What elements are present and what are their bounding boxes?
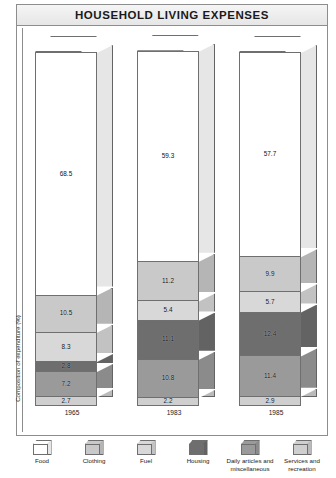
bar-segment: 8.3 bbox=[35, 332, 97, 361]
bar-segment: 11.2 bbox=[137, 261, 199, 301]
legend-swatch-cube-icon bbox=[33, 440, 52, 455]
segment-value-label: 5.4 bbox=[164, 307, 173, 313]
bar-top-face bbox=[137, 35, 199, 51]
bar-group-1985: 57.79.95.712.411.42.9 1985 bbox=[239, 52, 317, 406]
legend-swatch-cube-icon bbox=[241, 440, 260, 455]
legend-swatch-cube-icon bbox=[293, 440, 312, 455]
bar-group-1965: 68.510.58.32.87.22.7 1965 bbox=[35, 52, 113, 406]
segment-value-label: 57.7 bbox=[264, 151, 276, 157]
legend-label: Fuel bbox=[140, 457, 152, 465]
bar-segment: 2.8 bbox=[35, 361, 97, 371]
stacked-bar: 59.311.25.411.110.82.2 bbox=[137, 51, 199, 406]
legend-item[interactable]: Housing bbox=[172, 440, 224, 465]
bar-segment: 2.9 bbox=[239, 396, 301, 406]
bar-segment: 57.7 bbox=[239, 52, 301, 256]
bar-segment: 2.7 bbox=[35, 396, 97, 406]
legend-label: Housing bbox=[187, 457, 210, 465]
stacked-bar: 68.510.58.32.87.22.7 bbox=[35, 52, 97, 406]
bar-segment: 10.8 bbox=[137, 359, 199, 397]
cube-front-face bbox=[137, 444, 152, 455]
legend-label: Clothing bbox=[83, 457, 106, 465]
bar-top-face bbox=[239, 36, 301, 52]
bar-segment: 5.4 bbox=[137, 300, 199, 319]
category-label: 1965 bbox=[35, 409, 109, 416]
chart-root: HOUSEHOLD LIVING EXPENSES Composition of… bbox=[0, 0, 336, 478]
segment-value-label: 59.3 bbox=[162, 153, 174, 159]
cube-front-face bbox=[293, 444, 308, 455]
cube-front-face bbox=[85, 444, 100, 455]
segment-value-label: 2.9 bbox=[266, 398, 275, 404]
bar-top-face bbox=[35, 36, 97, 52]
bar-segment: 59.3 bbox=[137, 51, 199, 261]
y-axis-label: Composition of expenditure (%) bbox=[14, 289, 21, 429]
legend-item[interactable]: Services and recreation bbox=[276, 440, 328, 472]
segment-value-label: 7.2 bbox=[62, 381, 71, 387]
segment-value-label: 8.3 bbox=[62, 344, 71, 350]
segment-value-label: 10.8 bbox=[162, 375, 174, 381]
segment-value-label: 11.4 bbox=[264, 373, 276, 379]
legend-item[interactable]: Food bbox=[16, 440, 68, 465]
bar-segment: 5.7 bbox=[239, 291, 301, 311]
bar-segment: 11.1 bbox=[137, 320, 199, 359]
legend-swatch-cube-icon bbox=[189, 440, 208, 455]
category-label: 1983 bbox=[137, 409, 211, 416]
bar-segment: 7.2 bbox=[35, 371, 97, 396]
segment-value-label: 11.2 bbox=[162, 278, 174, 284]
chart-title-bar: HOUSEHOLD LIVING EXPENSES bbox=[16, 4, 328, 26]
segment-value-label: 10.5 bbox=[60, 310, 72, 316]
legend-label: Services and recreation bbox=[276, 457, 328, 472]
segment-value-label: 5.7 bbox=[266, 299, 275, 305]
segment-value-label: 2.7 bbox=[62, 398, 71, 404]
segment-value-label: 2.2 bbox=[164, 398, 173, 404]
bar-segment: 10.5 bbox=[35, 295, 97, 332]
chart-legend: FoodClothingFuelHousingDaily articles an… bbox=[16, 440, 328, 476]
legend-item[interactable]: Daily articles and miscellaneous bbox=[224, 440, 276, 472]
legend-label: Daily articles and miscellaneous bbox=[224, 457, 276, 472]
segment-value-label: 9.9 bbox=[266, 271, 275, 277]
bar-segment: 2.2 bbox=[137, 397, 199, 406]
legend-item[interactable]: Fuel bbox=[120, 440, 172, 465]
stacked-bar: 57.79.95.712.411.42.9 bbox=[239, 52, 301, 406]
segment-value-label: 12.4 bbox=[264, 331, 276, 337]
bar-segment: 12.4 bbox=[239, 312, 301, 356]
cube-front-face bbox=[241, 444, 256, 455]
legend-swatch-cube-icon bbox=[85, 440, 104, 455]
segment-value-label: 2.8 bbox=[62, 363, 71, 369]
cube-front-face bbox=[189, 444, 204, 455]
legend-label: Food bbox=[35, 457, 49, 465]
legend-swatch-cube-icon bbox=[137, 440, 156, 455]
cube-front-face bbox=[33, 444, 48, 455]
plot-area: 68.510.58.32.87.22.7 1965 59.311.25.411.… bbox=[24, 28, 326, 432]
page-title: HOUSEHOLD LIVING EXPENSES bbox=[75, 9, 269, 21]
y-axis-line bbox=[22, 28, 23, 432]
bar-segment: 11.4 bbox=[239, 355, 301, 395]
segment-value-label: 11.1 bbox=[162, 336, 174, 342]
category-label: 1985 bbox=[239, 409, 313, 416]
bar-segment: 9.9 bbox=[239, 256, 301, 291]
legend-item[interactable]: Clothing bbox=[68, 440, 120, 465]
bar-segment: 68.5 bbox=[35, 52, 97, 294]
bar-group-1983: 59.311.25.411.110.82.2 1983 bbox=[137, 51, 215, 406]
segment-value-label: 68.5 bbox=[60, 171, 72, 177]
